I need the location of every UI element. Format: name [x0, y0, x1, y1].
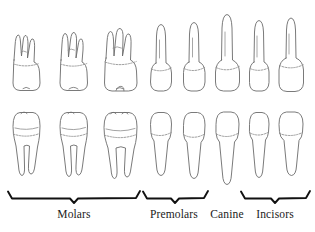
- upper-tooth-third-molar: [13, 35, 40, 91]
- upper-tooth-first-molar: [105, 28, 138, 91]
- lower-tooth-third-molar: [13, 112, 40, 176]
- lower-tooth-central-incisor: [279, 112, 303, 176]
- dentition-illustration: Molars Premolars Canine Incisors: [0, 0, 315, 232]
- mandibular-row: [13, 112, 303, 185]
- group-labels: Molars Premolars Canine Incisors: [57, 208, 294, 220]
- upper-tooth-second-premolar: [151, 25, 172, 92]
- upper-tooth-second-molar: [60, 32, 88, 90]
- label-canine: Canine: [210, 208, 243, 220]
- bracket-molars: [8, 191, 140, 203]
- lower-tooth-canine: [216, 112, 239, 185]
- tooth-anatomy-diagram: Molars Premolars Canine Incisors: [0, 0, 315, 232]
- lower-tooth-lateral-incisor: [250, 113, 270, 178]
- lower-tooth-first-molar: [104, 112, 137, 178]
- label-premolars: Premolars: [150, 208, 198, 220]
- label-molars: Molars: [57, 208, 91, 220]
- lower-tooth-first-premolar: [184, 113, 206, 179]
- upper-tooth-central-incisor: [279, 18, 304, 92]
- upper-tooth-lateral-incisor: [250, 21, 270, 92]
- upper-tooth-first-premolar: [184, 23, 206, 92]
- lower-tooth-second-molar: [60, 112, 88, 177]
- bracket-incisors: [241, 191, 310, 203]
- group-brackets: [8, 191, 310, 203]
- bracket-premolars: [143, 191, 208, 203]
- lower-tooth-second-premolar: [151, 113, 172, 176]
- upper-tooth-canine: [216, 15, 240, 92]
- label-incisors: Incisors: [256, 208, 294, 220]
- maxillary-row: [13, 15, 304, 92]
